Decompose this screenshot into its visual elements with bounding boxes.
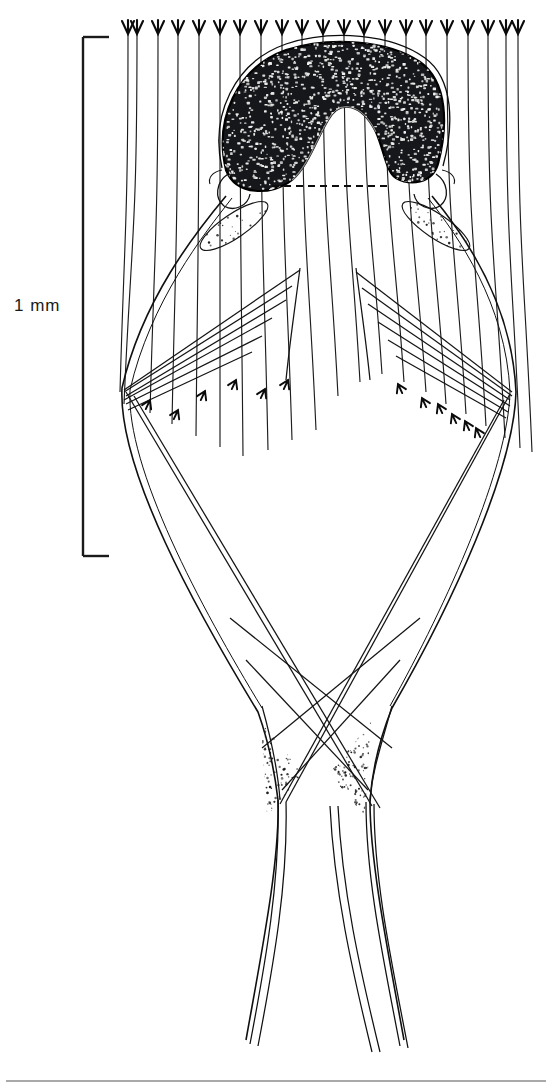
scientific-illustration — [0, 0, 552, 1090]
scale-bar-label: 1 mm — [14, 296, 61, 316]
figure-root: 1 mm — [0, 0, 552, 1090]
